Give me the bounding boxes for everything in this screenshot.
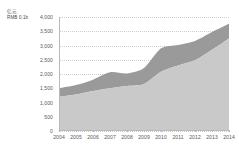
y-axis-labels: 05001,0001,5002,0002,5003,0003,5004,000 [0,17,57,131]
plot-area [59,17,229,131]
x-tick-mark [212,130,213,132]
y-axis-tick-label: 4,000 [40,14,53,20]
x-tick-mark [144,130,145,132]
x-axis-tick-label: 2009 [138,134,150,140]
x-tick-mark [59,130,60,132]
x-axis-tick-label: 2007 [104,134,116,140]
x-tick-mark [110,130,111,132]
x-axis-tick-label: 2004 [53,134,65,140]
area-chart: 亿元 RMB 0.1b 05001,0001,5002,0002,5003,00… [0,0,239,148]
x-tick-mark [178,130,179,132]
x-axis-tick-label: 2010 [155,134,167,140]
y-axis-tick-label: 2,500 [40,57,53,63]
y-axis-tick-label: 3,500 [40,28,53,34]
x-tick-mark [76,130,77,132]
x-axis-tick-label: 2014 [223,134,235,140]
x-tick-mark [161,130,162,132]
y-axis-tick-label: 3,000 [40,43,53,49]
x-tick-mark [229,130,230,132]
x-tick-mark [93,130,94,132]
x-tick-mark [195,130,196,132]
x-tick-mark [127,130,128,132]
y-axis-line [59,17,60,131]
y-axis-tick-label: 500 [44,114,53,120]
x-axis-tick-label: 2011 [172,134,183,140]
x-axis-labels: 2004200520062007200820092010201120122013… [59,134,229,146]
x-axis-tick-label: 2012 [189,134,201,140]
y-axis-tick-label: 1,500 [40,85,53,91]
y-axis-tick-label: 1,000 [40,100,53,106]
y-axis-tick-label: 2,000 [40,71,53,77]
x-axis-tick-label: 2005 [70,134,82,140]
x-axis-tick-label: 2008 [121,134,133,140]
stacked-area-series [59,17,229,131]
x-axis-tick-label: 2006 [87,134,99,140]
x-axis-tick-label: 2013 [206,134,218,140]
